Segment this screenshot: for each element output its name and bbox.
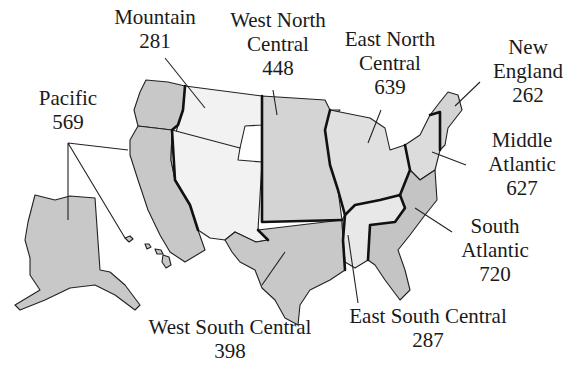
region-west-south-central	[225, 220, 345, 325]
label-south-atlantic: South Atlantic 720	[440, 214, 550, 286]
label-east-north-central: East North Central 639	[325, 27, 455, 99]
leader-new-england	[455, 82, 480, 106]
label-pacific: Pacific 569	[28, 86, 108, 134]
label-new-england: New England 262	[478, 35, 577, 107]
label-mountain: Mountain 281	[100, 5, 210, 53]
label-west-north-central: West North Central 448	[213, 8, 343, 80]
census-division-map: Pacific 569 Mountain 281 West North Cent…	[0, 0, 577, 380]
label-west-south-central: West South Central 398	[130, 315, 330, 363]
label-middle-atlantic: Middle Atlantic 627	[467, 128, 577, 200]
label-east-south-central: East South Central 287	[328, 304, 528, 352]
